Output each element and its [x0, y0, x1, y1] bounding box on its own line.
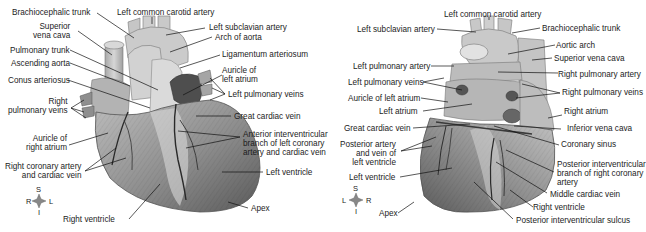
compass-inferior-anterior: I: [38, 208, 40, 217]
label-anterior-interventricular-branch: Anterior interventricular branch of left…: [243, 130, 328, 157]
label-ascending-aorta: Ascending aorta: [11, 59, 70, 68]
label-right-pulmonary-veins-posterior: Right pulmonary veins: [562, 88, 643, 97]
orientation-compass-anterior: [32, 194, 46, 208]
label-great-cardiac-vein-posterior: Great cardiac vein: [344, 124, 410, 133]
label-left-common-carotid-artery-posterior: Left common carotid artery: [444, 10, 541, 19]
label-right-pulmonary-artery: Right pulmonary artery: [558, 70, 641, 79]
label-left-common-carotid-artery: Left common carotid artery: [117, 8, 214, 17]
label-ligamentum-arteriosum: Ligamentum arteriosum: [222, 50, 308, 59]
compass-left-anterior: L: [49, 197, 53, 206]
label-auricle-of-left-atrium: Auricle of left atrium: [222, 66, 258, 84]
label-right-pulmonary-veins: Right pulmonary veins: [8, 97, 68, 115]
label-left-pulmonary-artery: Left pulmonary artery: [353, 62, 430, 71]
label-superior-vena-cava-posterior: Superior vena cava: [554, 54, 625, 63]
label-left-ventricle-anterior: Left ventricle: [266, 168, 312, 177]
label-left-ventricle-posterior: Left ventricle: [349, 173, 395, 182]
label-arch-of-aorta: Arch of aorta: [215, 33, 262, 42]
label-posterior-interventricular-branch: Posterior interventricular branch of rig…: [557, 160, 646, 187]
label-auricle-of-right-atrium: Auricle of right atrium: [26, 134, 67, 152]
compass-superior-anterior: S: [36, 185, 41, 194]
compass-left-posterior: L: [342, 196, 346, 205]
compass-superior-posterior: S: [353, 184, 358, 193]
label-great-cardiac-vein-anterior: Great cardiac vein: [234, 112, 300, 121]
label-brachiocephalic-trunk: Brachiocephalic trunk: [12, 8, 90, 17]
label-left-pulmonary-veins-posterior: Left pulmonary veins: [348, 78, 424, 87]
label-coronary-sinus: Coronary sinus: [561, 140, 616, 149]
label-brachiocephalic-trunk-posterior: Brachiocephalic trunk: [542, 24, 620, 33]
label-left-subclavian-artery-posterior: Left subclavian artery: [357, 25, 435, 34]
label-right-coronary-artery-and-cardiac-vein: Right coronary artery and cardiac vein: [5, 162, 81, 180]
label-pulmonary-trunk: Pulmonary trunk: [10, 46, 70, 55]
label-aortic-arch: Aortic arch: [556, 41, 595, 50]
label-right-ventricle: Right ventricle: [63, 215, 115, 224]
compass-inferior-posterior: I: [355, 207, 357, 216]
label-left-atrium: Left atrium: [379, 107, 418, 116]
label-posterior-interventricular-sulcus: Posterior interventricular sulcus: [516, 216, 630, 225]
label-superior-vena-cava: Superior vena cava: [33, 22, 70, 40]
label-posterior-artery-and-vein-of-left-ventricle: Posterior artery and vein of left ventri…: [340, 140, 396, 167]
posterior-heart-illustration: [420, 16, 555, 212]
compass-right-posterior: R: [366, 196, 371, 205]
label-left-subclavian-artery: Left subclavian artery: [209, 23, 287, 32]
label-middle-cardiac-vein: Middle cardiac vein: [550, 190, 620, 199]
compass-right-anterior: R: [26, 197, 31, 206]
label-conus-arteriosus: Conus arteriosus: [8, 76, 70, 85]
anterior-heart-illustration: [80, 16, 260, 212]
label-auricle-of-left-atrium-posterior: Auricle of left atrium: [348, 94, 420, 103]
label-inferior-vena-cava: Inferior vena cava: [567, 124, 632, 133]
label-apex-posterior: Apex: [379, 209, 398, 218]
label-left-pulmonary-veins-anterior: Left pulmonary veins: [228, 90, 304, 99]
label-apex-anterior: Apex: [251, 204, 270, 213]
label-right-ventricle-posterior: Right ventricle: [533, 203, 585, 212]
orientation-compass-posterior: [349, 193, 363, 207]
label-right-atrium: Right atrium: [564, 107, 608, 116]
